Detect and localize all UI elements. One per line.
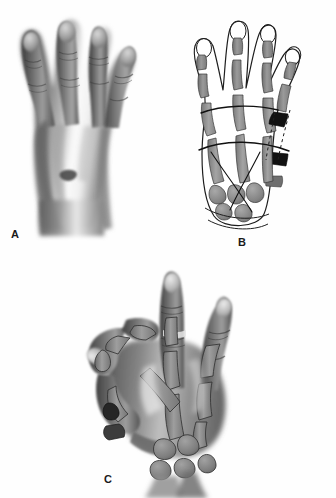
artist-signature [192, 453, 221, 478]
figure-root: A [0, 0, 336, 498]
panel-c-pinch-posture-skeleton [60, 250, 292, 498]
panel-a-wrist [39, 200, 105, 236]
panel-label-b: B [238, 237, 246, 248]
panel-a-dorsal-hand-photograph [0, 0, 168, 250]
panel-label-c: C [104, 474, 112, 485]
panel-b-skeletal-line-diagram [168, 0, 336, 250]
panel-label-a: A [11, 229, 19, 240]
